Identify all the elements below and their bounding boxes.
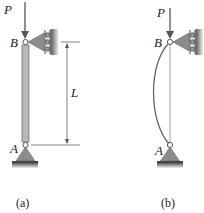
load-label: P <box>3 2 12 17</box>
pin-b-icon <box>167 39 172 44</box>
load-arrow-icon <box>21 2 29 39</box>
dimension-label: L <box>70 85 78 100</box>
column-buckling-diagram: P B A <box>0 0 203 213</box>
pin-b-label: B <box>10 35 18 50</box>
pin-b-label: B <box>154 35 162 50</box>
caption-b: (b) <box>161 196 175 210</box>
pin-a-label: A <box>154 143 163 158</box>
roller-support-icon <box>28 29 59 55</box>
roller-support-icon <box>173 29 203 55</box>
pin-a-label: A <box>9 141 18 156</box>
figure-b: P B A (b) <box>154 5 204 210</box>
column <box>22 45 29 142</box>
buckled-column <box>154 42 171 145</box>
figure-a: P B A <box>3 2 80 210</box>
load-label: P <box>156 5 165 20</box>
load-arrow-icon <box>166 8 174 39</box>
pin-b-icon <box>23 39 28 44</box>
caption-a: (a) <box>16 196 29 210</box>
